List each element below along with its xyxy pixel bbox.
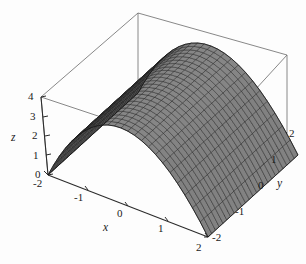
x-tick-2: 2 <box>196 242 202 253</box>
surface-plot-canvas <box>0 0 306 264</box>
y-tick--1: -1 <box>235 206 244 217</box>
z-tick-2: 2 <box>32 130 38 141</box>
y-tick-0: 0 <box>258 180 264 191</box>
surface-plot-figure: 4 3 2 1 0 z -2 -1 0 1 2 x 2 1 0 -1 -2 y <box>0 0 306 264</box>
z-axis-label: z <box>11 132 15 144</box>
x-tick-1: 1 <box>158 223 164 234</box>
x-axis-label: x <box>103 222 108 234</box>
x-tick--2: -2 <box>33 178 42 189</box>
z-tick-4: 4 <box>28 91 34 102</box>
x-tick--1: -1 <box>74 192 83 203</box>
z-tick-1: 1 <box>33 150 39 161</box>
y-tick--2: -2 <box>212 232 221 243</box>
y-axis-label: y <box>277 178 282 190</box>
x-tick-0: 0 <box>117 208 123 219</box>
z-tick-3: 3 <box>30 111 36 122</box>
surface-mesh <box>48 43 298 237</box>
y-tick-2: 2 <box>289 128 295 139</box>
y-tick-1: 1 <box>271 154 277 165</box>
